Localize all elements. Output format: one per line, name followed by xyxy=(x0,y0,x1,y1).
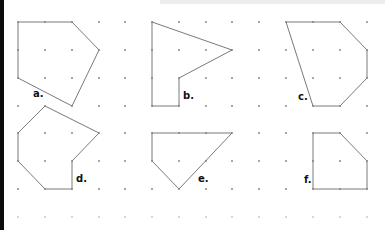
grid-dot xyxy=(124,21,126,23)
grid-dot xyxy=(205,49,207,51)
grid-dot xyxy=(285,49,287,51)
grid-dot xyxy=(285,132,287,134)
grid-dot xyxy=(231,77,233,79)
grid-dot xyxy=(124,77,126,79)
grid-dot xyxy=(17,188,19,190)
grid-dot xyxy=(71,49,73,51)
grid-dot xyxy=(312,216,314,218)
polygon-c: c. xyxy=(286,22,367,106)
grid-dot xyxy=(98,160,100,162)
grid-dot xyxy=(124,160,126,162)
polygon-outline xyxy=(18,22,99,106)
grid-dot xyxy=(258,77,260,79)
grid-dot xyxy=(178,21,180,23)
grid-dot xyxy=(124,132,126,134)
grid-dot xyxy=(366,216,368,218)
grid-dot xyxy=(151,216,153,218)
grid-dot xyxy=(339,49,341,51)
grid-dot xyxy=(258,21,260,23)
grid-dot xyxy=(178,216,180,218)
grid-dot xyxy=(312,77,314,79)
dot-grid-polygons-figure: a.b.c.d.e.f. xyxy=(0,0,385,230)
grid-dot xyxy=(285,216,287,218)
grid-dot xyxy=(285,105,287,107)
grid-dot xyxy=(17,105,19,107)
grid-dot xyxy=(17,216,19,218)
grid-dot xyxy=(258,132,260,134)
shape-label: c. xyxy=(298,91,308,102)
shape-label: d. xyxy=(76,173,87,184)
grid-dot xyxy=(258,188,260,190)
grid-dot xyxy=(231,188,233,190)
grid-dot xyxy=(124,216,126,218)
shape-label: a. xyxy=(33,88,44,99)
grid-dot xyxy=(231,216,233,218)
grid-dot xyxy=(285,160,287,162)
grid-dot xyxy=(258,160,260,162)
grid-dot xyxy=(366,105,368,107)
grid-dot xyxy=(44,49,46,51)
grid-dot xyxy=(71,77,73,79)
shape-label: b. xyxy=(183,90,194,101)
polygon-e: e. xyxy=(152,133,232,189)
grid-dot xyxy=(178,49,180,51)
polygon-shapes: a.b.c.d.e.f. xyxy=(18,22,367,189)
grid-dot xyxy=(366,132,368,134)
grid-dot xyxy=(44,216,46,218)
grid-dot xyxy=(339,216,341,218)
polygon-outline xyxy=(152,133,232,189)
polygon-b: b. xyxy=(152,22,232,106)
grid-dot xyxy=(124,188,126,190)
grid-dot xyxy=(366,21,368,23)
grid-dot xyxy=(98,21,100,23)
grid-dot xyxy=(98,105,100,107)
grid-dot xyxy=(285,77,287,79)
polygon-f: f. xyxy=(304,133,367,189)
grid-dot xyxy=(258,49,260,51)
grid-dot xyxy=(205,21,207,23)
grid-dot xyxy=(231,105,233,107)
grid-dot xyxy=(71,216,73,218)
shape-label: f. xyxy=(304,174,312,185)
grid-dot xyxy=(205,77,207,79)
grid-dot xyxy=(98,188,100,190)
grid-dot xyxy=(312,49,314,51)
grid-dot xyxy=(178,160,180,162)
grid-dot xyxy=(151,188,153,190)
grid-dot xyxy=(44,77,46,79)
grid-dot xyxy=(205,188,207,190)
polygon-d: d. xyxy=(18,106,99,189)
dot-grid xyxy=(17,21,368,218)
shape-label: e. xyxy=(198,173,209,184)
grid-dot xyxy=(285,188,287,190)
polygon-a: a. xyxy=(18,22,99,106)
grid-dot xyxy=(231,21,233,23)
grid-dot xyxy=(71,132,73,134)
grid-dot xyxy=(258,105,260,107)
grid-dot xyxy=(205,216,207,218)
grid-dot xyxy=(339,160,341,162)
grid-dot xyxy=(339,77,341,79)
grid-dot xyxy=(44,160,46,162)
grid-dot xyxy=(44,132,46,134)
grid-dot xyxy=(98,216,100,218)
grid-dot xyxy=(124,49,126,51)
grid-dot xyxy=(98,77,100,79)
grid-dot xyxy=(205,105,207,107)
grid-dot xyxy=(124,105,126,107)
grid-dot xyxy=(258,216,260,218)
grid-dot xyxy=(231,160,233,162)
